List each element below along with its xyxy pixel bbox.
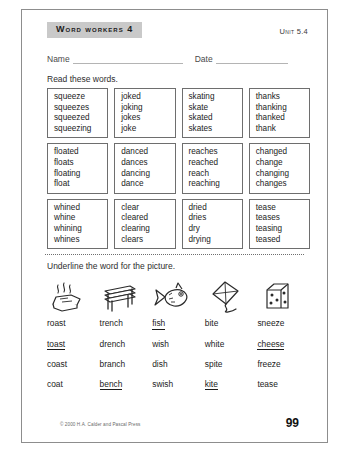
answer-word[interactable]: roast [47, 318, 66, 329]
answer-cell[interactable]: branch [98, 359, 151, 370]
word-box-row: floated floats floating float danced dan… [47, 143, 310, 193]
word-item: changing [256, 169, 304, 180]
word-box-grid: squeeze squeezes squeezed squeezing joke… [35, 88, 314, 249]
word-item: squeezing [54, 124, 102, 135]
word-item: squeeze [54, 92, 102, 103]
word-item: skates [189, 124, 237, 135]
answer-word[interactable]: white [205, 339, 225, 350]
answer-cell[interactable]: drench [98, 339, 151, 351]
answer-cell[interactable]: kite [203, 379, 256, 391]
answer-word[interactable]: trench [100, 318, 123, 329]
word-item: changed [256, 147, 304, 158]
answer-cell[interactable]: dish [150, 359, 203, 370]
picture-cell [255, 280, 308, 314]
answer-row: coast branch dish spite freeze [45, 359, 308, 370]
answer-cell[interactable]: bite [203, 318, 256, 330]
answer-word[interactable]: spite [205, 359, 223, 370]
section-divider [45, 254, 304, 255]
name-input-line[interactable] [73, 54, 183, 64]
fish-icon [152, 280, 192, 314]
word-item: skate [189, 103, 237, 114]
answer-cell[interactable]: fish [150, 318, 203, 330]
word-item: joked [121, 92, 169, 103]
answer-word[interactable]: swish [152, 379, 173, 390]
word-item: floats [54, 158, 102, 169]
word-item: reaches [189, 147, 237, 158]
word-item: thanking [256, 103, 304, 114]
word-box: joked joking jokes joke [114, 88, 175, 138]
word-box: squeeze squeezes squeezed squeezing [47, 88, 108, 138]
answer-cell[interactable]: bench [98, 379, 151, 391]
word-item: reach [189, 169, 237, 180]
bench-icon [100, 280, 140, 314]
word-item: teased [256, 235, 304, 246]
word-item: dries [189, 213, 237, 224]
date-label: Date [195, 54, 213, 64]
worksheet-content: Word Workers 4 Unit 5.4 NameDate Read th… [35, 20, 314, 436]
worksheet-page: Word Workers 4 Unit 5.4 NameDate Read th… [21, 9, 328, 443]
word-item: floating [54, 169, 102, 180]
answer-word[interactable]: sneeze [257, 318, 284, 329]
answer-word[interactable]: tease [257, 379, 278, 390]
word-item: dancing [121, 169, 169, 180]
word-item: whining [54, 224, 102, 235]
answer-word[interactable]: freeze [257, 359, 280, 370]
answer-cell[interactable]: roast [45, 318, 98, 330]
answer-word[interactable]: dish [152, 359, 167, 370]
word-box-row: squeeze squeezes squeezed squeezing joke… [47, 88, 310, 138]
word-item: changes [256, 179, 304, 190]
answer-cell[interactable]: swish [150, 379, 203, 391]
answer-word[interactable]: coast [47, 359, 67, 370]
word-item: clear [121, 203, 169, 214]
answer-cell[interactable]: white [203, 339, 256, 351]
answer-word[interactable]: drench [100, 339, 126, 350]
word-item: float [54, 179, 102, 190]
word-item: reaching [189, 179, 237, 190]
date-input-line[interactable] [216, 54, 288, 64]
word-item: whines [54, 235, 102, 246]
answer-word[interactable]: toast [47, 339, 65, 351]
answer-cell[interactable]: coat [45, 379, 98, 391]
word-item: jokes [121, 113, 169, 124]
word-item: whine [54, 213, 102, 224]
word-item: squeezes [54, 103, 102, 114]
answer-word[interactable]: wish [152, 339, 169, 350]
word-item: dance [121, 179, 169, 190]
answer-cell[interactable]: sneeze [255, 318, 308, 330]
word-box: reaches reached reach reaching [182, 143, 243, 193]
answer-cell[interactable]: coast [45, 359, 98, 370]
answer-word[interactable]: bench [100, 379, 123, 391]
answer-cell[interactable]: spite [203, 359, 256, 370]
word-item: clearing [121, 224, 169, 235]
answer-cell[interactable]: trench [98, 318, 151, 330]
answer-word[interactable]: fish [152, 318, 165, 330]
word-item: thank [256, 124, 304, 135]
cheese-icon [257, 280, 297, 314]
word-box: tease teases teasing teased [249, 199, 310, 249]
answer-row: coat bench swish kite tease [45, 379, 308, 391]
picture-cell [98, 280, 151, 314]
worksheet-header: Word Workers 4 Unit 5.4 [35, 20, 314, 44]
answer-cell[interactable]: tease [255, 379, 308, 391]
answer-cell[interactable]: cheese [255, 339, 308, 351]
word-item: reached [189, 158, 237, 169]
read-words-instruction: Read these words. [35, 74, 314, 84]
answer-cell[interactable]: toast [45, 339, 98, 351]
answer-row: roast trench fish bite sneeze [45, 318, 308, 330]
kite-icon [205, 280, 245, 314]
answer-word[interactable]: branch [100, 359, 126, 370]
unit-label: Unit 5.4 [280, 27, 308, 36]
picture-row [35, 274, 314, 314]
answer-cell[interactable]: freeze [255, 359, 308, 370]
answer-word[interactable]: coat [47, 379, 63, 390]
word-item: floated [54, 147, 102, 158]
worksheet-footer: © 2000 H.A. Calder and Pascal Press 99 [48, 414, 301, 428]
word-item: change [256, 158, 304, 169]
answer-word[interactable]: kite [205, 379, 218, 391]
name-date-row: NameDate [35, 54, 314, 70]
answer-cell[interactable]: wish [150, 339, 203, 351]
answer-word[interactable]: bite [205, 318, 219, 329]
word-item: skating [189, 92, 237, 103]
answer-word[interactable]: cheese [257, 339, 284, 351]
page-number: 99 [286, 416, 299, 430]
